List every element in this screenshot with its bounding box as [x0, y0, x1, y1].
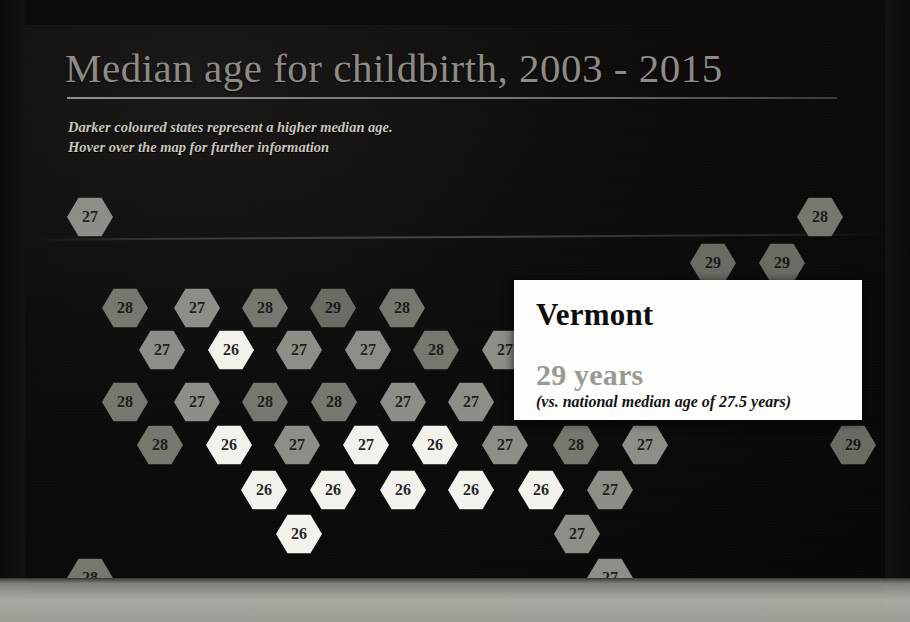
page-edge-left: [0, 0, 25, 622]
hex-tile-value: 26: [221, 436, 237, 454]
map-tooltip: Vermont 29 years (vs. national median ag…: [514, 280, 862, 420]
hex-tile-value: 28: [326, 393, 342, 411]
hex-tile-value: 27: [395, 393, 411, 411]
hex-tile-value: 26: [395, 481, 411, 499]
hex-tile-value: 27: [289, 436, 305, 454]
subtitle-line-2: Hover over the map for further informati…: [68, 137, 393, 157]
hex-tile-value: 28: [394, 299, 410, 317]
hex-tile[interactable]: 28: [311, 382, 357, 422]
hex-tile-value: 27: [463, 393, 479, 411]
hex-tile[interactable]: 26: [208, 330, 254, 370]
hex-tile[interactable]: 28: [379, 288, 425, 328]
hex-tile[interactable]: 29: [690, 243, 736, 283]
hex-tile-value: 27: [189, 393, 205, 411]
hex-tile-value: 26: [427, 436, 443, 454]
hex-tile-value: 27: [497, 436, 513, 454]
map-screenshot: Median age for childbirth, 2003 - 2015 D…: [0, 0, 910, 622]
paper-fold-line: [25, 233, 885, 240]
hex-tile-value: 29: [325, 299, 341, 317]
hex-tile[interactable]: 29: [310, 288, 356, 328]
hex-tile-value: 28: [428, 341, 444, 359]
hex-tile-value: 28: [257, 393, 273, 411]
hex-tile[interactable]: 26: [276, 514, 322, 554]
hex-tile[interactable]: 28: [102, 382, 148, 422]
hex-tile-value: 27: [189, 299, 205, 317]
hex-tile[interactable]: 28: [797, 197, 843, 237]
hex-tile-value: 26: [291, 525, 307, 543]
hex-tile[interactable]: 27: [343, 425, 389, 465]
subtitle: Darker coloured states represent a highe…: [68, 117, 393, 157]
hex-tile-value: 27: [291, 341, 307, 359]
hex-tile[interactable]: 28: [102, 288, 148, 328]
hex-tile-value: 26: [223, 341, 239, 359]
hex-tile-value: 27: [637, 436, 653, 454]
hex-tile-value: 27: [154, 341, 170, 359]
hex-tile[interactable]: 28: [413, 330, 459, 370]
hex-tile[interactable]: 28: [242, 382, 288, 422]
hex-tile[interactable]: 29: [759, 243, 805, 283]
hex-tile-value: 26: [256, 481, 272, 499]
hex-tile[interactable]: 26: [206, 425, 252, 465]
title-divider: [67, 97, 837, 99]
hex-tile[interactable]: 27: [174, 382, 220, 422]
hex-tile-value: 28: [257, 299, 273, 317]
hex-tile-value: 28: [568, 436, 584, 454]
hex-tile-value: 27: [82, 208, 98, 226]
cartogram-panel: Median age for childbirth, 2003 - 2015 D…: [25, 25, 885, 578]
hex-tile-value: 29: [705, 254, 721, 272]
hex-tile-value: 26: [533, 481, 549, 499]
hex-tile[interactable]: 27: [554, 514, 600, 554]
hex-tile-value: 28: [812, 208, 828, 226]
page-title: Median age for childbirth, 2003 - 2015: [65, 43, 723, 93]
hex-tile[interactable]: 27: [380, 382, 426, 422]
hex-tile-value: 27: [602, 569, 618, 578]
hex-tile-value: 29: [845, 436, 861, 454]
page-edge-top: [0, 0, 910, 25]
hex-tile-value: 27: [358, 436, 374, 454]
hex-tile-value: 26: [325, 481, 341, 499]
hex-tile[interactable]: 28: [553, 425, 599, 465]
hex-tile[interactable]: 29: [830, 425, 876, 465]
hex-tile-value: 27: [602, 481, 618, 499]
hex-tile[interactable]: 26: [241, 470, 287, 510]
hex-tile-value: 26: [463, 481, 479, 499]
hex-tile[interactable]: 27: [345, 330, 391, 370]
tooltip-state-name: Vermont: [536, 297, 653, 333]
hex-tile-value: 28: [152, 436, 168, 454]
hex-tile[interactable]: 27: [622, 425, 668, 465]
hex-tile[interactable]: 27: [482, 425, 528, 465]
hex-tile[interactable]: 27: [67, 197, 113, 237]
hex-tile[interactable]: 26: [380, 470, 426, 510]
hex-tile[interactable]: 27: [587, 470, 633, 510]
page-edge-right: [885, 0, 910, 622]
hex-tile[interactable]: 27: [587, 558, 633, 578]
hex-tile[interactable]: 26: [448, 470, 494, 510]
tooltip-value: 29 years: [536, 358, 643, 392]
hex-tile[interactable]: 26: [518, 470, 564, 510]
hex-tile-value: 28: [117, 393, 133, 411]
hex-tile[interactable]: 26: [310, 470, 356, 510]
hex-tile-value: 29: [774, 254, 790, 272]
hex-tile[interactable]: 26: [412, 425, 458, 465]
hex-tile[interactable]: 27: [139, 330, 185, 370]
hex-tile[interactable]: 27: [276, 330, 322, 370]
tooltip-note: (vs. national median age of 27.5 years): [536, 393, 791, 411]
hex-tile[interactable]: 27: [174, 288, 220, 328]
hex-tile-value: 27: [360, 341, 376, 359]
hex-tile[interactable]: 27: [448, 382, 494, 422]
hex-tile-value: 27: [569, 525, 585, 543]
subtitle-line-1: Darker coloured states represent a highe…: [68, 117, 393, 137]
page-edge-bottom: [0, 578, 910, 622]
hex-tile[interactable]: 28: [67, 558, 113, 578]
hex-tile[interactable]: 28: [242, 288, 288, 328]
hex-tile-value: 27: [497, 341, 513, 359]
hex-tile-value: 28: [117, 299, 133, 317]
hex-tile[interactable]: 27: [274, 425, 320, 465]
hex-tile-value: 28: [82, 569, 98, 578]
hex-tile[interactable]: 28: [137, 425, 183, 465]
